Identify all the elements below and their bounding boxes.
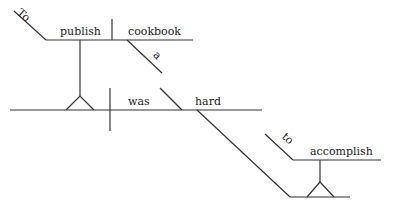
word-was: was (128, 96, 150, 107)
complement-diagonal (197, 110, 290, 197)
word-cookbook: cookbook (128, 26, 181, 37)
word-publish: publish (60, 26, 101, 37)
word-accomplish: accomplish (310, 146, 373, 157)
pedestal-2-triangle (307, 182, 334, 197)
predicate-adjective-divider (160, 88, 182, 110)
sentence-diagram: To publish cookbook a was hard to accomp… (0, 0, 396, 214)
pedestal-triangle (66, 96, 94, 110)
word-hard: hard (195, 96, 221, 107)
